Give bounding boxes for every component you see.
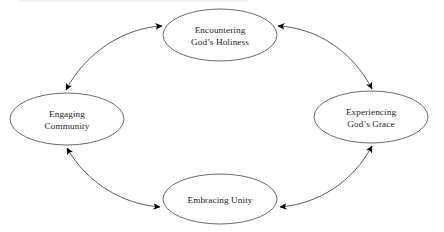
node-encountering-gods-holiness-shape[interactable] [163, 9, 277, 61]
node-engaging-community-label-line1: Engaging [49, 109, 85, 119]
node-embracing-unity[interactable]: Embracing Unity [163, 174, 277, 224]
connector-experiencing-gods-grace-embracing-unity [280, 146, 372, 207]
node-engaging-community-shape[interactable] [10, 93, 124, 145]
node-encountering-gods-holiness-label-line1: Encountering [195, 25, 246, 35]
connector-encountering-gods-holiness-experiencing-gods-grace [278, 26, 372, 89]
node-experiencing-gods-grace-shape[interactable] [314, 91, 428, 143]
node-encountering-gods-holiness-label-line2: God’s Holiness [191, 37, 249, 47]
cycle-diagram: Encountering God’s Holiness Experiencing… [0, 0, 444, 232]
connector-engaging-community-encountering-gods-holiness [66, 26, 162, 90]
node-experiencing-gods-grace[interactable]: Experiencing God’s Grace [314, 91, 428, 143]
node-engaging-community[interactable]: Engaging Community [10, 93, 124, 145]
node-embracing-unity-label-line1: Embracing Unity [187, 195, 252, 205]
diagram-canvas: Encountering God’s Holiness Experiencing… [0, 0, 444, 232]
node-experiencing-gods-grace-label-line2: God’s Grace [347, 119, 394, 129]
node-engaging-community-label-line2: Community [45, 121, 90, 131]
connector-embracing-unity-engaging-community [67, 148, 160, 207]
node-experiencing-gods-grace-label-line1: Experiencing [346, 107, 396, 117]
node-encountering-gods-holiness[interactable]: Encountering God’s Holiness [163, 9, 277, 61]
